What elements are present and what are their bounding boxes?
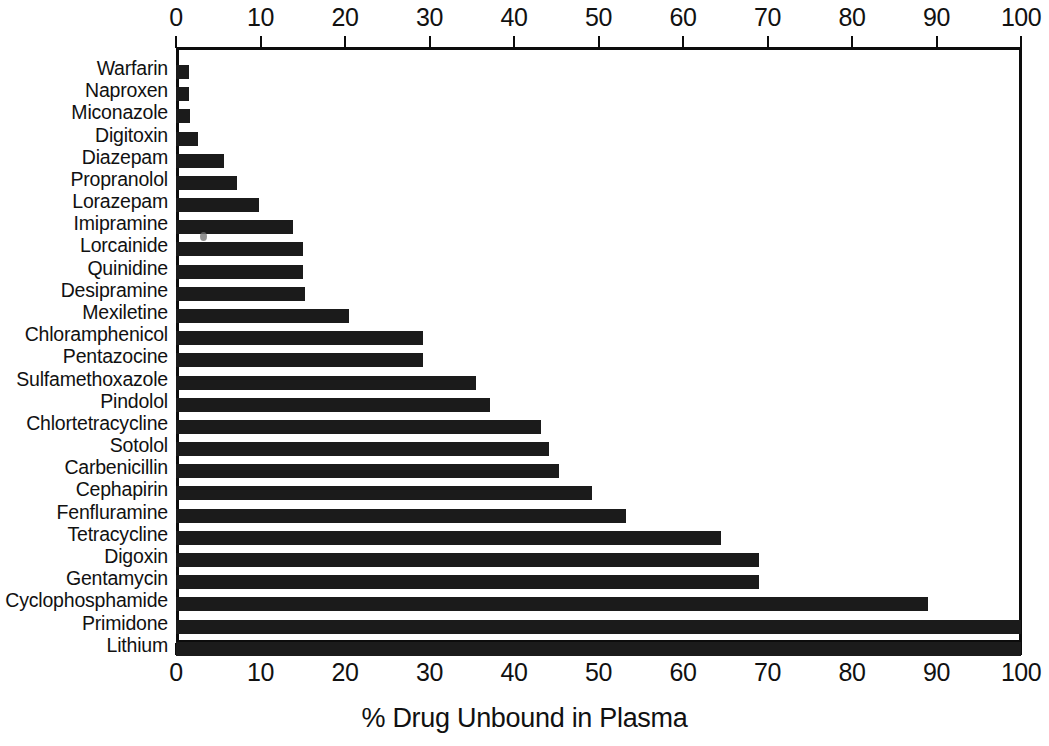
category-label: Lithium [0,635,168,655]
bottom-tick-label: 50 [559,660,639,685]
category-label: Naproxen [0,80,168,100]
bar [176,176,237,190]
category-label: Propranolol [0,169,168,189]
top-tick-mark [767,36,769,48]
bar [176,486,592,500]
bar [176,198,259,212]
category-label: Primidone [0,613,168,633]
bar [176,287,305,301]
bottom-tick-label: 0 [136,660,216,685]
category-label: Warfarin [0,58,168,78]
category-label: Imipramine [0,213,168,233]
bar [176,242,303,256]
bottom-tick-label: 20 [305,660,385,685]
bar [176,154,224,168]
bottom-tick-label: 60 [643,660,723,685]
top-tick-label: 20 [305,5,385,30]
top-tick-label: 50 [559,5,639,30]
bottom-tick-label: 90 [897,660,977,685]
bar [176,376,476,390]
bar [176,220,293,234]
category-label: Pindolol [0,391,168,411]
category-label: Chlortetracycline [0,413,168,433]
top-tick-mark [682,36,684,48]
bar [176,442,549,456]
bar [176,509,626,523]
top-tick-mark [936,36,938,48]
bar [176,309,349,323]
top-tick-mark [429,36,431,48]
bar [176,420,541,434]
bar [176,109,190,123]
bar [176,553,759,567]
bar [176,575,759,589]
top-tick-label: 40 [474,5,554,30]
bottom-tick-label: 30 [390,660,470,685]
bar [176,597,928,611]
bar [176,642,1021,656]
category-label: Sulfamethoxazole [0,369,168,389]
top-tick-mark [175,36,177,48]
bottom-tick-label: 100 [981,660,1049,685]
bar [176,398,490,412]
top-tick-label: 100 [981,5,1049,30]
category-label: Desipramine [0,280,168,300]
top-tick-label: 10 [221,5,301,30]
top-tick-mark [344,36,346,48]
category-label: Digoxin [0,546,168,566]
category-label: Lorcainide [0,235,168,255]
top-tick-mark [513,36,515,48]
bar-chart-figure: 0102030405060708090100 01020304050607080… [0,0,1049,746]
bar [176,65,189,79]
bar [176,265,303,279]
category-label: Digitoxin [0,125,168,145]
category-label: Chloramphenicol [0,324,168,344]
bar [176,620,1021,634]
bottom-tick-label: 10 [221,660,301,685]
top-tick-label: 60 [643,5,723,30]
bar [176,464,559,478]
bar [176,132,198,146]
category-label: Mexiletine [0,302,168,322]
category-label: Diazepam [0,147,168,167]
bar [176,531,721,545]
top-tick-mark [1020,36,1022,48]
category-label: Pentazocine [0,346,168,366]
top-tick-label: 70 [728,5,808,30]
bottom-tick-label: 80 [812,660,892,685]
top-tick-label: 0 [136,5,216,30]
top-tick-label: 90 [897,5,977,30]
top-tick-mark [260,36,262,48]
top-tick-mark [598,36,600,48]
scan-artifact-speck [200,232,207,241]
category-label: Carbenicillin [0,457,168,477]
category-label: Gentamycin [0,568,168,588]
category-label: Quinidine [0,258,168,278]
x-axis-title: % Drug Unbound in Plasma [0,703,1049,733]
category-label: Fenfluramine [0,502,168,522]
bar [176,353,423,367]
top-tick-label: 80 [812,5,892,30]
category-label: Sotolol [0,435,168,455]
category-label: Tetracycline [0,524,168,544]
bar [176,87,189,101]
category-label: Miconazole [0,102,168,122]
top-tick-mark [851,36,853,48]
category-label: Lorazepam [0,191,168,211]
bottom-tick-label: 40 [474,660,554,685]
top-tick-label: 30 [390,5,470,30]
category-label: Cyclophosphamide [0,590,168,610]
bottom-tick-label: 70 [728,660,808,685]
category-label: Cephapirin [0,479,168,499]
bar [176,331,423,345]
